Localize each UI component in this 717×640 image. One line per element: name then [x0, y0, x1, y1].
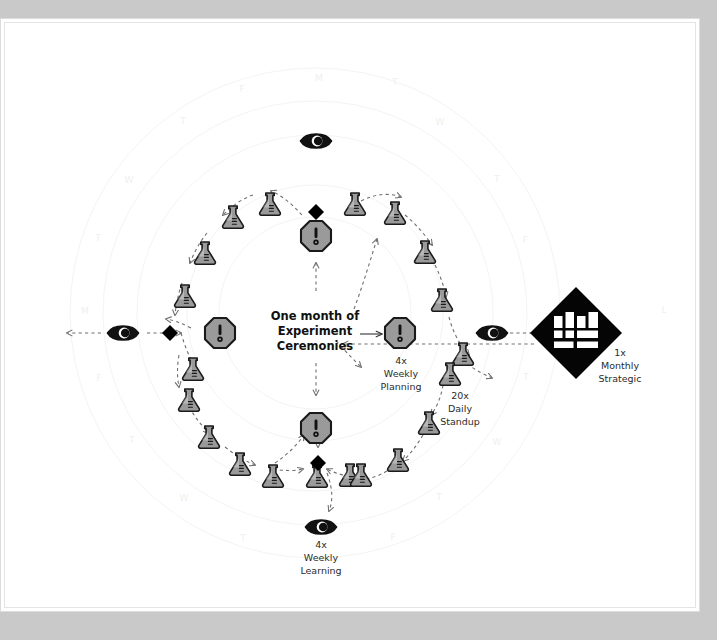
- flask-icon: [453, 343, 474, 365]
- page-title: One month of Experiment Ceremonies: [271, 309, 360, 353]
- octagon-alert-icon: [301, 221, 331, 251]
- flask-icon: [179, 389, 200, 411]
- svg-text:W: W: [180, 493, 189, 503]
- daily-standup-line-3: Standup: [440, 416, 480, 427]
- svg-text:T: T: [435, 492, 442, 502]
- weekly-planning-line-2: Weekly: [384, 368, 419, 379]
- flask-icon: [263, 465, 284, 487]
- flask-icon: [195, 242, 216, 264]
- flask-icon: [415, 241, 436, 263]
- svg-text:F: F: [96, 373, 101, 383]
- diagram-card: M F T T W W T T F M L F T T W W T: [4, 22, 696, 608]
- caption-daily-standup: 20x Daily Standup: [440, 390, 480, 427]
- eye-icon: [477, 326, 508, 340]
- svg-text:F: F: [239, 84, 244, 94]
- weekly-planning-line-3: Planning: [381, 381, 422, 392]
- eye-icon-weekly-learning: [306, 520, 337, 534]
- svg-text:F: F: [390, 532, 395, 542]
- daily-standup-line-2: Daily: [448, 403, 472, 414]
- svg-text:T: T: [522, 372, 529, 382]
- flask-icon: [440, 363, 461, 385]
- weekly-learning-line-3: Learning: [300, 565, 341, 576]
- octagon-alert-icon: [301, 413, 331, 443]
- monthly-strategic-line-3: Strategic: [599, 373, 642, 384]
- title-line-1: One month of: [271, 309, 360, 323]
- flask-icon: [345, 193, 366, 215]
- diagram-stage: M F T T W W T T F M L F T T W W T: [5, 23, 695, 607]
- svg-text:T: T: [128, 435, 135, 445]
- diamond-marker: [310, 455, 326, 471]
- caption-weekly-planning: 4x Weekly Planning: [381, 355, 422, 392]
- monthly-strategic-count: 1x: [614, 347, 626, 358]
- eye-icon: [301, 134, 332, 148]
- daily-standup-count: 20x: [451, 390, 469, 401]
- flask-icon: [199, 426, 220, 448]
- caption-monthly-strategic: 1x Monthly Strategic: [599, 347, 642, 384]
- flask-icon: [230, 453, 251, 475]
- weekly-planning-count: 4x: [395, 355, 407, 366]
- svg-text:M: M: [315, 73, 323, 83]
- octagon-alert-icon-weekly-planning: [385, 318, 415, 348]
- octagon-alert-icon: [205, 318, 235, 348]
- svg-text:W: W: [125, 175, 134, 185]
- svg-text:L: L: [661, 305, 666, 315]
- svg-text:M: M: [81, 306, 89, 316]
- svg-text:T: T: [239, 533, 246, 543]
- svg-text:F: F: [522, 235, 527, 245]
- diamond-marker: [162, 325, 178, 341]
- svg-text:W: W: [436, 117, 445, 127]
- weekly-learning-line-2: Weekly: [304, 552, 339, 563]
- flask-icon: [432, 289, 453, 311]
- caption-weekly-learning: 4x Weekly Learning: [300, 539, 341, 576]
- svg-text:T: T: [179, 116, 186, 126]
- monthly-strategic-line-2: Monthly: [601, 360, 639, 371]
- svg-text:T: T: [94, 233, 101, 243]
- flask-icon: [419, 412, 440, 434]
- page-background: M F T T W W T T F M L F T T W W T: [0, 0, 717, 640]
- flask-icon: [388, 449, 409, 471]
- eye-icon: [108, 326, 139, 340]
- title-line-2: Experiment: [278, 324, 353, 338]
- svg-text:T: T: [391, 77, 398, 87]
- flask-icon: [385, 202, 406, 224]
- svg-text:W: W: [493, 437, 502, 447]
- svg-text:T: T: [493, 174, 500, 184]
- title-line-3: Ceremonies: [277, 339, 354, 353]
- experiment-ceremonies-cycle-diagram: M F T T W W T T F M L F T T W W T: [5, 23, 695, 607]
- weekly-learning-count: 4x: [315, 539, 327, 550]
